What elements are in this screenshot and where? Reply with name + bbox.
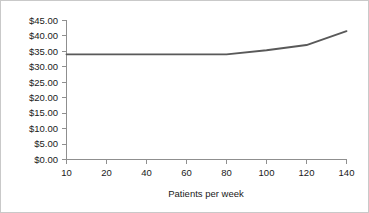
y-tick-label-5: $5.00 [34, 138, 58, 149]
x-tick-label-20: 20 [101, 167, 112, 178]
x-tick-label-120: 120 [299, 167, 315, 178]
y-tick-label-40: $40.00 [29, 30, 58, 41]
y-tick-label-0: $0.00 [34, 154, 58, 165]
x-axis-title: Patients per week [168, 188, 244, 199]
y-tick-label-20: $20.00 [29, 92, 58, 103]
y-tick-label-25: $25.00 [29, 77, 58, 88]
x-tick-label-140: 140 [339, 167, 355, 178]
y-tick-label-15: $15.00 [29, 107, 58, 118]
line-chart: $0.00 $5.00 $10.00 $15.00 $20.00 $25.00 … [1, 1, 369, 213]
y-tick-label-45: $45.00 [29, 15, 58, 26]
chart-figure: $0.00 $5.00 $10.00 $15.00 $20.00 $25.00 … [0, 0, 369, 213]
x-tick-label-80: 80 [221, 167, 232, 178]
x-tick-label-40: 40 [141, 167, 152, 178]
x-tick-label-60: 60 [181, 167, 192, 178]
y-tick-label-30: $30.00 [29, 61, 58, 72]
x-tick-label-10: 10 [61, 167, 72, 178]
x-tick-label-100: 100 [259, 167, 275, 178]
y-tick-label-10: $10.00 [29, 123, 58, 134]
y-tick-label-35: $35.00 [29, 46, 58, 57]
